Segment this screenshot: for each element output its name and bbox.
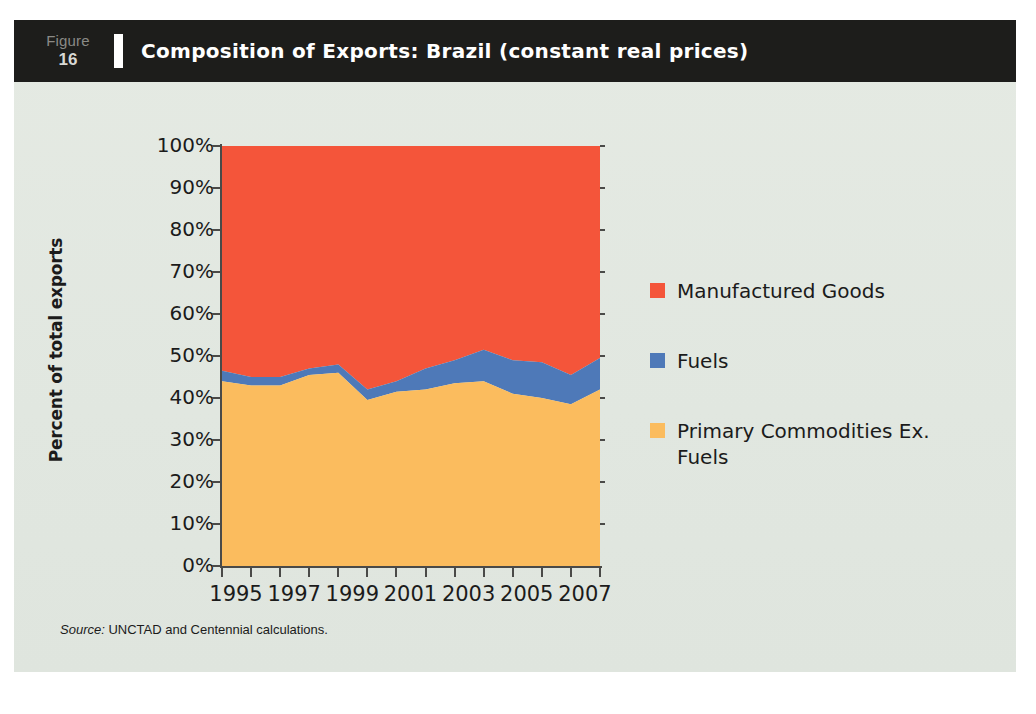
right-tick-mark xyxy=(600,481,605,483)
x-tick-label: 2003 xyxy=(442,582,495,606)
legend-label: Manufactured Goods xyxy=(677,278,885,304)
header-divider-rule xyxy=(114,34,123,68)
area-manufactured-goods xyxy=(222,146,600,390)
chart-area: Percent of total exports 100%90%80%70%60… xyxy=(14,82,1016,672)
figure-number: 16 xyxy=(59,50,78,70)
figure-word-label: Figure xyxy=(46,33,90,49)
figure-page: Figure 16 Composition of Exports: Brazil… xyxy=(0,0,1036,714)
x-tick-label: 1995 xyxy=(209,582,262,606)
x-tick-label: 1999 xyxy=(326,582,379,606)
x-axis-tick-labels: 1995199719992001200320052007 xyxy=(164,582,684,622)
right-tick-mark xyxy=(600,439,605,441)
legend-swatch-icon xyxy=(650,423,665,438)
x-tick-mark xyxy=(337,568,339,577)
x-tick-mark xyxy=(425,568,427,577)
right-tick-mark xyxy=(600,355,605,357)
figure-title: Composition of Exports: Brazil (constant… xyxy=(141,39,749,63)
right-tick-mark xyxy=(600,145,605,147)
figure-panel: Figure 16 Composition of Exports: Brazil… xyxy=(14,20,1016,672)
right-tick-mark xyxy=(600,313,605,315)
right-tick-mark xyxy=(600,187,605,189)
source-note: Source: UNCTAD and Centennial calculatio… xyxy=(60,622,328,637)
y-tick-label: 40% xyxy=(136,385,214,409)
x-tick-mark xyxy=(454,568,456,577)
legend-item[interactable]: Manufactured Goods xyxy=(650,278,980,304)
right-tick-mark xyxy=(600,229,605,231)
x-tick-label: 2007 xyxy=(558,582,611,606)
x-tick-mark xyxy=(221,568,223,577)
x-tick-label: 1997 xyxy=(267,582,320,606)
y-tick-label: 50% xyxy=(136,343,214,367)
legend-item[interactable]: Primary Commodities Ex. Fuels xyxy=(650,418,980,470)
figure-header-bar: Figure 16 Composition of Exports: Brazil… xyxy=(14,20,1016,82)
stacked-area-svg xyxy=(222,146,600,566)
x-tick-label: 2005 xyxy=(500,582,553,606)
legend-item[interactable]: Fuels xyxy=(650,348,980,374)
legend-swatch-icon xyxy=(650,353,665,368)
y-tick-label: 30% xyxy=(136,427,214,451)
x-tick-mark xyxy=(570,568,572,577)
y-tick-label: 90% xyxy=(136,175,214,199)
y-axis-title: Percent of total exports xyxy=(46,220,66,480)
x-tick-label: 2001 xyxy=(384,582,437,606)
x-tick-mark xyxy=(599,568,601,577)
x-tick-mark xyxy=(279,568,281,577)
area-primary-commodities xyxy=(222,373,600,566)
x-tick-mark xyxy=(250,568,252,577)
x-tick-mark xyxy=(512,568,514,577)
y-tick-label: 20% xyxy=(136,469,214,493)
y-tick-label: 10% xyxy=(136,511,214,535)
right-tick-mark xyxy=(600,271,605,273)
source-prefix: Source: xyxy=(60,622,105,637)
y-tick-label: 100% xyxy=(136,133,214,157)
figure-number-block: Figure 16 xyxy=(14,33,114,70)
legend-label: Primary Commodities Ex. Fuels xyxy=(677,418,947,470)
x-tick-mark xyxy=(308,568,310,577)
x-axis-line xyxy=(220,566,602,568)
legend-swatch-icon xyxy=(650,283,665,298)
right-tick-mark xyxy=(600,523,605,525)
x-tick-mark xyxy=(541,568,543,577)
x-tick-mark xyxy=(395,568,397,577)
legend-label: Fuels xyxy=(677,348,728,374)
y-tick-label: 60% xyxy=(136,301,214,325)
source-text: UNCTAD and Centennial calculations. xyxy=(105,622,328,637)
chart-legend: Manufactured GoodsFuelsPrimary Commoditi… xyxy=(650,278,980,514)
y-tick-label: 80% xyxy=(136,217,214,241)
y-tick-label: 70% xyxy=(136,259,214,283)
x-tick-mark xyxy=(366,568,368,577)
plot-region xyxy=(222,146,600,566)
x-tick-mark xyxy=(483,568,485,577)
right-tick-mark xyxy=(600,397,605,399)
y-tick-label: 0% xyxy=(136,553,214,577)
